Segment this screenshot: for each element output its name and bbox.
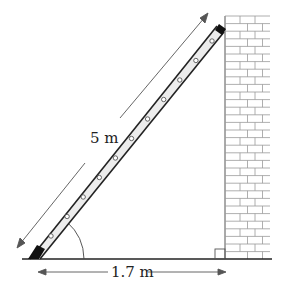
base-distance-label: 1.7 m — [111, 263, 154, 281]
ladder-diagram: 5 m 1.7 m — [0, 0, 287, 288]
ladder — [28, 24, 226, 259]
right-angle-marker — [215, 249, 225, 259]
ladder-length-label: 5 m — [90, 129, 119, 147]
brick-wall — [225, 16, 270, 259]
angle-arc — [67, 222, 84, 259]
